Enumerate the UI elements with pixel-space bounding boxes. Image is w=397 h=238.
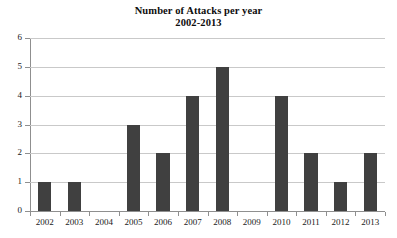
x-tick-mark: [326, 212, 327, 216]
bar-slot: [60, 38, 90, 211]
x-axis-tick-label: 2002: [30, 217, 60, 231]
bar-slot: [207, 38, 237, 211]
bar-series: [30, 38, 385, 211]
x-axis-tick-label: 2004: [89, 217, 119, 231]
x-axis-ticks: [30, 212, 385, 216]
x-tick-mark: [296, 212, 297, 216]
bar-slot: [148, 38, 178, 211]
x-tick-mark: [60, 212, 61, 216]
chart-title: Number of Attacks per year: [0, 5, 397, 17]
x-axis-tick-label: 2003: [60, 217, 90, 231]
bar: [156, 153, 169, 211]
x-axis-labels: 2002200320042005200620072008200920102011…: [30, 217, 385, 231]
x-tick-mark: [385, 212, 386, 216]
bar: [186, 96, 199, 211]
bar-slot: [326, 38, 356, 211]
y-axis-tick-label: 2: [2, 148, 22, 157]
x-tick-mark: [89, 212, 90, 216]
x-tick-mark: [208, 212, 209, 216]
bar: [38, 182, 51, 211]
bar-slot: [237, 38, 267, 211]
chart-title-block: Number of Attacks per year 2002-2013: [0, 5, 397, 29]
x-tick-mark: [355, 212, 356, 216]
bar-slot: [119, 38, 149, 211]
bar-slot: [296, 38, 326, 211]
x-tick-mark: [267, 212, 268, 216]
x-axis-tick-label: 2009: [237, 217, 267, 231]
y-axis-tick-label: 5: [2, 62, 22, 71]
x-axis-tick-label: 2008: [207, 217, 237, 231]
y-axis-tick-label: 4: [2, 91, 22, 100]
x-axis-tick-label: 2007: [178, 217, 208, 231]
x-axis-tick-label: 2011: [296, 217, 326, 231]
y-axis-tick-label: 6: [2, 33, 22, 42]
bar-slot: [30, 38, 60, 211]
chart-subtitle: 2002-2013: [0, 17, 397, 29]
x-axis-tick-label: 2005: [119, 217, 149, 231]
x-axis-tick-label: 2013: [355, 217, 385, 231]
bar-slot: [178, 38, 208, 211]
bar-slot: [267, 38, 297, 211]
x-tick-mark: [30, 212, 31, 216]
x-tick-mark: [148, 212, 149, 216]
bar: [127, 125, 140, 212]
x-axis-tick-label: 2010: [267, 217, 297, 231]
x-tick-mark: [119, 212, 120, 216]
x-axis-tick-label: 2006: [148, 217, 178, 231]
bar-slot: [89, 38, 119, 211]
x-axis-tick-label: 2012: [326, 217, 356, 231]
bar: [364, 153, 377, 211]
x-tick-mark: [178, 212, 179, 216]
x-tick-mark: [237, 212, 238, 216]
bar-slot: [355, 38, 385, 211]
y-axis-tick-label: 1: [2, 177, 22, 186]
y-axis-tick-label: 3: [2, 120, 22, 129]
bar: [304, 153, 317, 211]
bar: [275, 96, 288, 211]
bar: [334, 182, 347, 211]
bar-chart: Number of Attacks per year 2002-2013 012…: [0, 0, 397, 238]
bar: [216, 67, 229, 211]
y-axis-tick-label: 0: [2, 206, 22, 215]
bar: [68, 182, 81, 211]
